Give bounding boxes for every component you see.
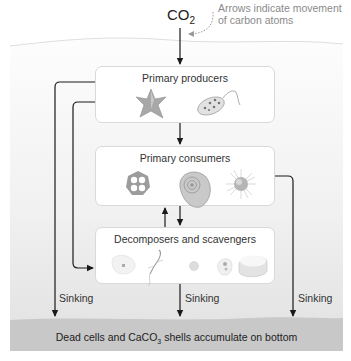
flagellate-icon: [194, 87, 246, 117]
copepod-icon: [144, 248, 166, 288]
caption-part-2: shells accumulate on bottom: [161, 331, 297, 343]
co2-subscript: 2: [190, 15, 196, 26]
co2-label: CO2: [167, 6, 195, 26]
shell-fragment-icon: [237, 252, 269, 280]
sinking-label-right: Sinking: [298, 292, 332, 304]
primary-producers-box: Primary producers: [95, 66, 275, 123]
star-diatom-icon: [134, 87, 168, 121]
sinking-label-center: Sinking: [185, 292, 219, 304]
decomposers-scavengers-box: Decomposers and scavengers: [95, 227, 275, 284]
bacterium-cell-icon: [110, 252, 138, 278]
note-line-2: of carbon atoms: [218, 14, 342, 26]
box-title: Decomposers and scavengers: [96, 233, 274, 245]
sinking-label-left: Sinking: [59, 292, 93, 304]
box-title: Primary consumers: [96, 152, 274, 164]
note-line-1: Arrows indicate movement: [218, 2, 342, 14]
ciliate-icon: [214, 254, 236, 278]
primary-consumers-box: Primary consumers: [95, 146, 275, 206]
small-cell-icon: [188, 260, 202, 272]
lattice-radiolarian-icon: [124, 169, 152, 197]
caption-part-1: Dead cells and CaCO: [56, 331, 158, 343]
arrow-note: Arrows indicate movement of carbon atoms: [218, 2, 342, 26]
sediment-caption: Dead cells and CaCO3 shells accumulate o…: [10, 331, 343, 345]
co2-text: CO: [167, 6, 190, 23]
box-title: Primary producers: [96, 72, 274, 84]
foraminiferan-shell-icon: [174, 165, 214, 209]
spiny-radiolarian-icon: [224, 167, 258, 201]
